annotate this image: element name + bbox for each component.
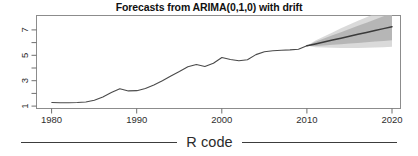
figure-root: Forecasts from ARIMA(0,1,0) with drift bbox=[0, 0, 418, 156]
y-tick-label-5: 5 bbox=[20, 53, 31, 58]
y-tick-label-7: 7 bbox=[20, 27, 31, 32]
caption-rule-left bbox=[21, 142, 177, 143]
x-tick-label-2010: 2010 bbox=[296, 114, 317, 125]
forecast-figure: Forecasts from ARIMA(0,1,0) with drift bbox=[0, 0, 418, 128]
y-axis-ticks bbox=[32, 30, 37, 106]
x-axis-labels: 1980 1990 2000 2010 2020 bbox=[41, 114, 403, 125]
caption-rule-right bbox=[242, 142, 397, 143]
x-axis-ticks bbox=[52, 109, 392, 114]
x-tick-label-1980: 1980 bbox=[41, 114, 62, 125]
caption-row: R code bbox=[0, 128, 418, 156]
x-tick-label-2000: 2000 bbox=[211, 114, 232, 125]
y-axis-labels: 1 3 5 7 bbox=[20, 27, 31, 108]
x-tick-label-1990: 1990 bbox=[126, 114, 147, 125]
y-tick-label-3: 3 bbox=[20, 78, 31, 83]
forecast-plot: 1 3 5 7 1980 1990 2000 2010 2020 bbox=[0, 0, 418, 128]
y-tick-label-1: 1 bbox=[20, 103, 31, 108]
x-tick-label-2020: 2020 bbox=[381, 114, 402, 125]
caption-label: R code bbox=[186, 134, 233, 150]
